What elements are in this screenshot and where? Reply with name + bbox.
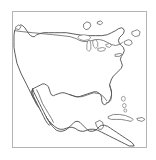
map-thumbnail — [0, 0, 156, 160]
north-america-map[interactable] — [13, 12, 146, 147]
bahamas-island-2 — [123, 103, 127, 107]
hispaniola-island — [137, 117, 145, 121]
northern-water-edge — [84, 22, 91, 30]
map-frame[interactable] — [12, 11, 147, 148]
bahamas-island-3 — [124, 109, 127, 112]
cuba-island — [109, 114, 134, 121]
bahamas-island-1 — [121, 96, 125, 101]
northern-island-edge — [98, 21, 103, 25]
newfoundland-island — [132, 30, 140, 37]
nova-scotia-island — [124, 40, 132, 46]
lake-superior — [78, 35, 91, 41]
lake-erie — [98, 47, 106, 51]
caption-strip — [8, 0, 128, 7]
lake-michigan — [87, 41, 91, 52]
north-america-landmass — [14, 25, 134, 146]
baja-california-peninsula — [33, 89, 51, 125]
